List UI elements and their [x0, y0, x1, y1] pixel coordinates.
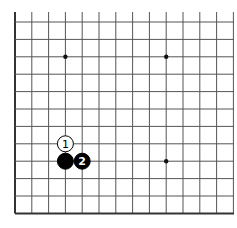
board-background: [0, 0, 237, 228]
star-point-icon: [164, 159, 168, 163]
stone-circle: [57, 153, 73, 169]
go-board-diagram: 12: [0, 0, 237, 228]
star-point-icon: [164, 55, 168, 59]
stone-move-number: 1: [62, 138, 69, 151]
black-stone: [57, 153, 73, 169]
star-point-icon: [63, 55, 67, 59]
stone-move-number: 2: [78, 155, 86, 168]
white-stone-1: 1: [57, 136, 73, 152]
black-stone-2: 2: [74, 153, 90, 169]
